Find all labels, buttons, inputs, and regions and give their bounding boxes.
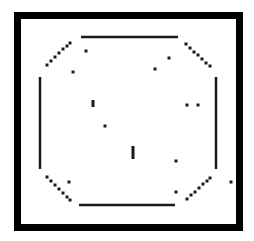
pellet <box>68 181 71 184</box>
wall-segment <box>46 64 49 67</box>
wall-segment <box>197 54 200 57</box>
wall-segment <box>189 47 192 50</box>
wall-segment <box>198 187 201 190</box>
wall-segment <box>194 191 197 194</box>
wall-segment <box>202 183 205 186</box>
wall-segment <box>190 194 193 197</box>
wall-segment <box>69 199 72 202</box>
diagonal-walls <box>46 42 212 202</box>
wall-segment <box>205 62 208 65</box>
pellets <box>68 50 233 194</box>
pellet <box>186 104 189 107</box>
wall-segment <box>50 180 53 183</box>
diagonal-top-right <box>185 43 212 68</box>
pellet <box>175 191 178 194</box>
wall-segment <box>58 188 61 191</box>
wall-segment <box>62 192 65 195</box>
pellet <box>197 104 200 107</box>
wall-segment <box>69 42 72 45</box>
wall-segment <box>206 180 209 183</box>
wall-segment <box>54 184 57 187</box>
wall-segment <box>58 52 61 55</box>
wall-segment <box>62 48 65 51</box>
pellet <box>168 57 171 60</box>
wall-segment <box>209 177 212 180</box>
arena-canvas <box>0 0 254 241</box>
wall-segment <box>185 43 188 46</box>
wall-segment <box>54 56 57 59</box>
pellet <box>72 71 75 74</box>
walls <box>40 37 216 205</box>
diagonal-top-left <box>46 42 72 67</box>
pellet <box>175 160 178 163</box>
pellet <box>230 181 233 184</box>
wall-segment <box>66 196 69 199</box>
obstacle-bar <box>132 146 135 159</box>
wall-segment <box>201 58 204 61</box>
pellet <box>154 68 157 71</box>
obstacle-bar <box>92 100 95 107</box>
diagonal-bottom-left <box>46 176 72 202</box>
wall-segment <box>186 198 189 201</box>
pellet <box>104 125 107 128</box>
wall-segment <box>193 51 196 54</box>
wall-segment <box>46 176 49 179</box>
obstacle-bars <box>92 100 135 159</box>
wall-segment <box>50 60 53 63</box>
wall-segment <box>66 45 69 48</box>
game-board <box>0 0 254 241</box>
diagonal-bottom-right <box>186 177 212 201</box>
pellet <box>85 50 88 53</box>
wall-segment <box>209 65 212 68</box>
